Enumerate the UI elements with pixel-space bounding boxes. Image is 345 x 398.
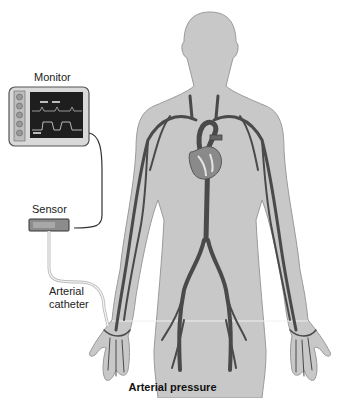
monitor-label: Monitor xyxy=(34,71,71,84)
pressure-transducer-icon xyxy=(29,219,69,231)
monitor-cable xyxy=(74,133,102,228)
sensor-label: Sensor xyxy=(32,203,67,216)
body-silhouette-icon xyxy=(89,12,330,398)
arterial-pressure-diagram xyxy=(0,0,345,398)
catheter-tube-icon xyxy=(49,231,108,326)
figure-caption: Arterial pressure xyxy=(0,381,345,393)
catheter-label-line2: catheter xyxy=(49,298,89,311)
catheter-label-line1: Arterial xyxy=(49,285,84,298)
monitor-icon xyxy=(9,87,89,146)
